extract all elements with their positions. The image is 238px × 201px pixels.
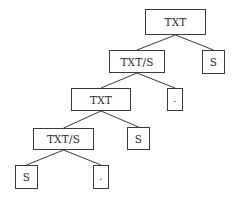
node-s-level5: S — [15, 165, 38, 189]
node-label: . — [173, 93, 176, 104]
node-label: TXT — [90, 94, 112, 106]
tree-diagram: TXT TXT/S S TXT . TXT/S S S . — [0, 0, 238, 201]
node-label: S — [210, 56, 217, 68]
node-label: TXT — [164, 16, 186, 28]
tree-edge — [64, 111, 102, 128]
node-txt-s-level4: TXT/S — [33, 128, 94, 150]
node-s-level2: S — [202, 50, 225, 74]
node-txt-level3: TXT — [71, 88, 131, 111]
node-label: TXT/S — [120, 56, 153, 68]
node-label: TXT/S — [47, 133, 80, 145]
node-period-level3: . — [167, 88, 183, 111]
tree-edge — [64, 150, 102, 165]
node-txt-s-level2: TXT/S — [109, 50, 165, 73]
node-label: S — [135, 133, 142, 145]
tree-edge — [101, 73, 137, 88]
node-s-level4: S — [127, 127, 150, 150]
tree-edge — [101, 111, 139, 127]
tree-edge — [176, 35, 214, 50]
node-label: . — [99, 171, 102, 182]
tree-edge — [137, 35, 176, 50]
node-period-level5: . — [93, 165, 109, 189]
node-label: S — [23, 171, 30, 183]
node-root-txt: TXT — [145, 9, 206, 35]
tree-edge — [27, 150, 64, 165]
tree-edge — [137, 73, 175, 88]
